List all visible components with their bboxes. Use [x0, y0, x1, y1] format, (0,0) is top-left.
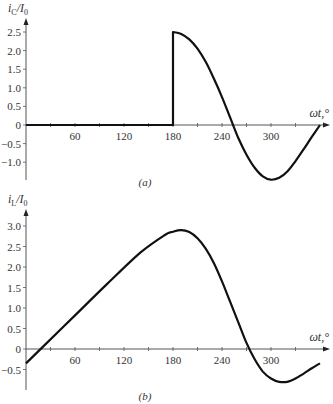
x-tick-label: 180 [165, 354, 182, 366]
panel-caption: (b) [139, 390, 152, 403]
x-tick-label: 240 [214, 354, 231, 366]
y-tick-label: −0.5 [1, 138, 21, 150]
chart-panel-b: 601201802403003.02.52.01.51.00.50−0.5iL/… [1, 192, 330, 403]
y-tick-label: 0 [16, 343, 22, 355]
x-axis-arrow-icon [323, 347, 330, 352]
y-tick-label: −1.0 [1, 156, 21, 168]
y-tick-label: 0.5 [7, 323, 21, 335]
x-axis-label: ωt,° [309, 330, 329, 344]
x-tick-label: 240 [214, 130, 231, 142]
y-axis-arrow-icon [24, 209, 29, 216]
y-tick-label: 1.5 [7, 282, 21, 294]
x-tick-label: 300 [263, 354, 280, 366]
y-tick-label: 0.5 [7, 100, 21, 112]
x-tick-label: 180 [165, 130, 182, 142]
y-tick-label: 2.5 [7, 241, 21, 253]
chart-panel-a: 601201802403002.52.01.51.00.50−0.5−1.0iC… [1, 1, 330, 189]
x-axis-arrow-icon [323, 123, 330, 128]
x-tick-label: 60 [70, 354, 82, 366]
y-tick-label: 2.5 [7, 26, 21, 38]
y-tick-label: 2.0 [7, 261, 21, 273]
y-tick-label: 1.0 [7, 82, 21, 94]
y-axis-label: iC/I0 [8, 1, 28, 17]
x-tick-label: 120 [116, 130, 133, 142]
x-tick-label: 60 [70, 130, 82, 142]
y-axis-label: iL/I0 [8, 192, 28, 208]
data-line [26, 32, 320, 180]
x-tick-label: 300 [263, 130, 280, 142]
figure: 601201802403002.52.01.51.00.50−0.5−1.0iC… [0, 0, 333, 404]
y-tick-label: −0.5 [1, 364, 21, 376]
y-axis-arrow-icon [24, 18, 29, 25]
x-tick-label: 120 [116, 354, 133, 366]
panel-caption: (a) [139, 176, 152, 189]
y-tick-label: 3.0 [7, 220, 21, 232]
y-tick-label: 1.5 [7, 63, 21, 75]
y-tick-label: 1.0 [7, 302, 21, 314]
y-tick-label: 0 [16, 119, 22, 131]
x-axis-label: ωt,° [309, 106, 329, 120]
y-tick-label: 2.0 [7, 45, 21, 57]
